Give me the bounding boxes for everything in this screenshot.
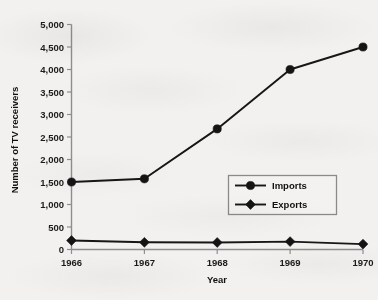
y-tick-label: 5,000 — [40, 19, 64, 30]
data-point-marker — [286, 65, 294, 73]
series-imports-line — [72, 47, 364, 182]
data-point-marker — [140, 237, 150, 247]
y-tick-label: 1,000 — [40, 199, 64, 210]
data-point-marker — [212, 238, 222, 248]
x-tick-label: 1966 — [61, 257, 82, 268]
y-axis-title: Number of TV receivers — [9, 87, 20, 194]
chart-legend[interactable]: Imports Exports — [229, 176, 337, 215]
chart-container: Number of TV receivers 5,000 4,500 4,000… — [0, 0, 378, 300]
y-tick-label: 2,500 — [40, 132, 64, 143]
x-axis-tick-labels: 1966 1967 1968 1969 1970 — [61, 257, 374, 268]
data-point-marker — [67, 236, 77, 246]
x-tick-label: 1967 — [134, 257, 155, 268]
y-tick-label: 500 — [48, 222, 64, 233]
y-tick-label: 4,000 — [40, 64, 64, 75]
data-point-marker — [285, 237, 295, 247]
y-tick-label: 4,500 — [40, 42, 64, 53]
y-tick-label: 2,000 — [40, 154, 64, 165]
x-tick-label: 1969 — [280, 257, 301, 268]
legend-marker-circle-icon — [246, 181, 254, 189]
line-chart: Number of TV receivers 5,000 4,500 4,000… — [0, 0, 378, 300]
y-tick-label: 1,500 — [40, 177, 64, 188]
y-axis-tick-labels: 5,000 4,500 4,000 3,500 3,000 2,500 2,00… — [40, 19, 64, 255]
data-point-marker — [358, 239, 368, 249]
data-point-marker — [359, 43, 367, 51]
data-point-marker — [67, 178, 75, 186]
legend-label-exports: Exports — [272, 199, 307, 210]
series-exports — [67, 236, 368, 249]
x-axis-title: Year — [207, 274, 227, 285]
x-tick-label: 1970 — [352, 257, 373, 268]
y-tick-label: 3,500 — [40, 87, 64, 98]
legend-label-imports: Imports — [272, 180, 307, 191]
y-tick-label: 3,000 — [40, 109, 64, 120]
y-tick-label: 0 — [59, 244, 64, 255]
series-imports — [67, 43, 367, 186]
data-point-marker — [213, 125, 221, 133]
data-point-marker — [140, 175, 148, 183]
x-tick-label: 1968 — [207, 257, 228, 268]
